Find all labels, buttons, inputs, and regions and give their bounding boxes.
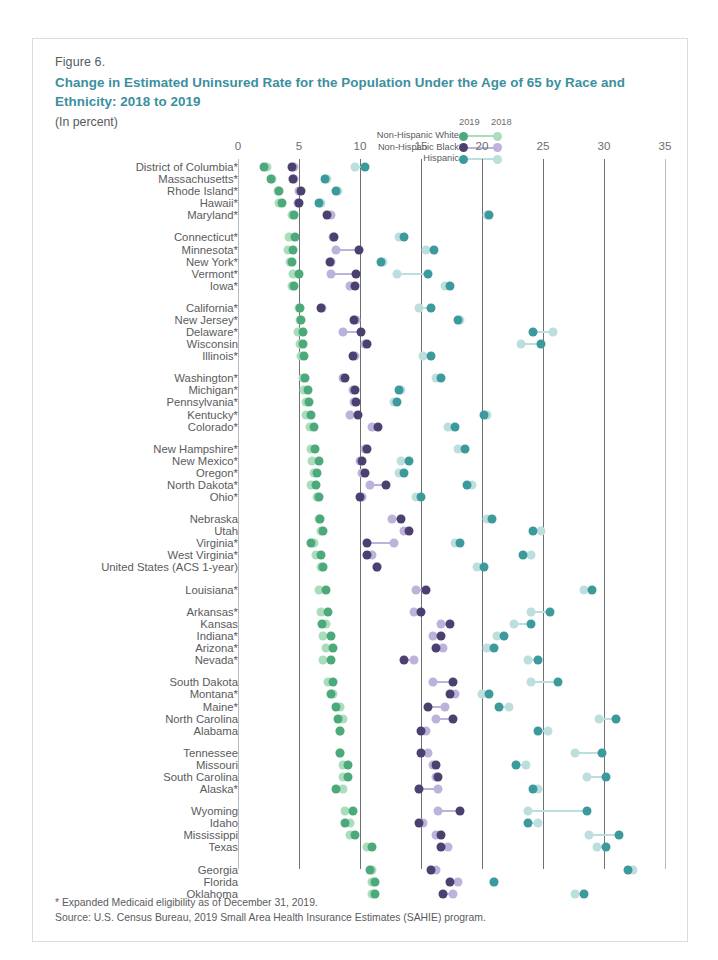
dot-37-black-2019 bbox=[446, 690, 455, 699]
dot-31-hispanic-2018 bbox=[526, 607, 535, 616]
dot-23-black-2018 bbox=[365, 480, 374, 489]
dot-35-hispanic-2019 bbox=[534, 656, 543, 665]
dot-9-black-2019 bbox=[351, 281, 360, 290]
dot-42-hispanic-2018 bbox=[521, 760, 530, 769]
dot-43-hispanic-2019 bbox=[602, 772, 611, 781]
dot-48-white-2019 bbox=[368, 843, 377, 852]
dot-27-white-2019 bbox=[307, 539, 316, 548]
dot-22-white-2019 bbox=[313, 468, 322, 477]
dot-45-hispanic-2018 bbox=[524, 807, 533, 816]
dot-49-hispanic-2019 bbox=[624, 865, 633, 874]
dot-20-white-2019 bbox=[310, 444, 319, 453]
dot-5-black-2019 bbox=[330, 233, 339, 242]
dot-21-white-2019 bbox=[314, 456, 323, 465]
dot-46-black-2019 bbox=[414, 819, 423, 828]
dot-4-white-2019 bbox=[290, 211, 299, 220]
dot-44-black-2019 bbox=[414, 785, 423, 794]
dot-13-white-2019 bbox=[298, 340, 307, 349]
dot-3-white-2019 bbox=[277, 199, 286, 208]
dot-0-hispanic-2018 bbox=[351, 163, 360, 172]
dot-6-white-2019 bbox=[288, 245, 297, 254]
dot-14-black-2019 bbox=[348, 352, 357, 361]
dot-19-white-2019 bbox=[309, 422, 318, 431]
figure-title: Change in Estimated Uninsured Rate for t… bbox=[55, 73, 665, 111]
x-axis-tick-labels: 05101520253035 bbox=[55, 139, 667, 159]
dot-9-hispanic-2019 bbox=[446, 281, 455, 290]
dot-18-white-2019 bbox=[307, 410, 316, 419]
dot-14-hispanic-2019 bbox=[426, 352, 435, 361]
dot-30-hispanic-2019 bbox=[587, 585, 596, 594]
dot-49-black-2019 bbox=[426, 865, 435, 874]
dot-39-black-2018 bbox=[431, 714, 440, 723]
dot-0-white-2019 bbox=[259, 163, 268, 172]
dot-33-black-2019 bbox=[436, 632, 445, 641]
dot-27-black-2018 bbox=[390, 539, 399, 548]
dot-12-hispanic-2019 bbox=[529, 328, 538, 337]
dot-42-white-2019 bbox=[343, 760, 352, 769]
dot-31-white-2019 bbox=[324, 607, 333, 616]
dot-32-hispanic-2019 bbox=[526, 620, 535, 629]
dot-34-hispanic-2019 bbox=[490, 644, 499, 653]
dot-32-hispanic-2018 bbox=[509, 620, 518, 629]
dot-2-white-2019 bbox=[275, 187, 284, 196]
dot-36-white-2019 bbox=[329, 678, 338, 687]
dot-0-hispanic-2019 bbox=[360, 163, 369, 172]
dot-26-black-2019 bbox=[404, 527, 413, 536]
dot-24-hispanic-2019 bbox=[417, 493, 426, 502]
dot-46-hispanic-2018 bbox=[534, 819, 543, 828]
dot-45-black-2019 bbox=[456, 807, 465, 816]
dot-12-white-2019 bbox=[298, 328, 307, 337]
dot-20-black-2019 bbox=[363, 444, 372, 453]
dot-43-white-2019 bbox=[343, 772, 352, 781]
x-tick-15: 15 bbox=[415, 139, 428, 152]
dot-1-hispanic-2019 bbox=[320, 175, 329, 184]
dot-47-white-2019 bbox=[351, 831, 360, 840]
dot-25-black-2018 bbox=[387, 515, 396, 524]
dot-5-hispanic-2019 bbox=[399, 233, 408, 242]
dot-30-white-2019 bbox=[321, 585, 330, 594]
dot-1-black-2019 bbox=[288, 175, 297, 184]
dot-20-hispanic-2019 bbox=[460, 444, 469, 453]
dot-0-black-2019 bbox=[287, 163, 296, 172]
dot-41-hispanic-2019 bbox=[597, 748, 606, 757]
figure-footnote: * Expanded Medicaid eligibility as of De… bbox=[55, 895, 655, 910]
dot-43-black-2019 bbox=[434, 772, 443, 781]
figure-subtitle: (In percent) bbox=[55, 115, 118, 129]
row-label-50: Florida bbox=[203, 877, 238, 888]
dot-6-black-2019 bbox=[354, 245, 363, 254]
dot-38-hispanic-2018 bbox=[504, 702, 513, 711]
dot-36-black-2019 bbox=[448, 678, 457, 687]
dot-18-hispanic-2019 bbox=[480, 410, 489, 419]
x-tick-20: 20 bbox=[476, 139, 489, 152]
dot-38-white-2019 bbox=[331, 702, 340, 711]
dot-21-hispanic-2019 bbox=[404, 456, 413, 465]
dot-32-black-2019 bbox=[446, 620, 455, 629]
dot-5-white-2019 bbox=[291, 233, 300, 242]
dot-31-hispanic-2019 bbox=[546, 607, 555, 616]
dot-47-black-2019 bbox=[436, 831, 445, 840]
dot-22-hispanic-2019 bbox=[399, 468, 408, 477]
dot-12-black-2019 bbox=[357, 328, 366, 337]
dot-35-white-2019 bbox=[326, 656, 335, 665]
figure-number: Figure 6. bbox=[55, 55, 105, 69]
dot-42-hispanic-2019 bbox=[512, 760, 521, 769]
x-tick-30: 30 bbox=[598, 139, 611, 152]
dot-25-hispanic-2019 bbox=[487, 515, 496, 524]
dot-45-hispanic-2019 bbox=[582, 807, 591, 816]
dot-19-hispanic-2019 bbox=[451, 422, 460, 431]
dot-9-white-2019 bbox=[290, 281, 299, 290]
dot-7-black-2019 bbox=[325, 257, 334, 266]
dot-18-black-2019 bbox=[353, 410, 362, 419]
dot-45-black-2018 bbox=[434, 807, 443, 816]
dot-24-white-2019 bbox=[314, 493, 323, 502]
dot-17-white-2019 bbox=[304, 398, 313, 407]
x-tick-35: 35 bbox=[659, 139, 672, 152]
dot-8-black-2019 bbox=[352, 269, 361, 278]
dot-2-black-2019 bbox=[297, 187, 306, 196]
dot-4-hispanic-2019 bbox=[485, 211, 494, 220]
dot-44-hispanic-2019 bbox=[529, 785, 538, 794]
dot-42-black-2019 bbox=[431, 760, 440, 769]
dot-40-white-2019 bbox=[336, 726, 345, 735]
dot-44-black-2018 bbox=[434, 785, 443, 794]
dot-10-hispanic-2019 bbox=[426, 303, 435, 312]
